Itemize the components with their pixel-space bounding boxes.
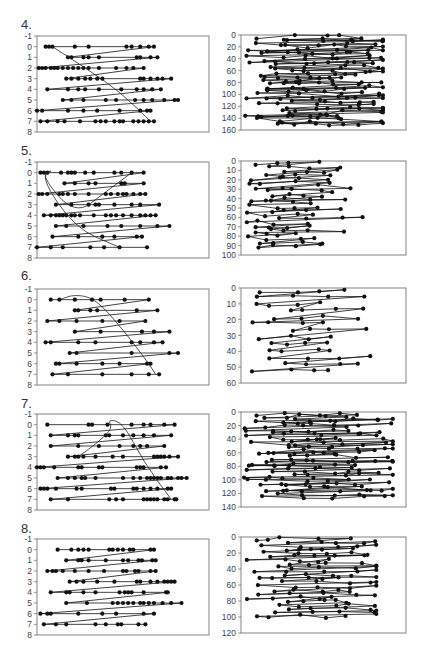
- data-point: [138, 444, 142, 448]
- data-point: [318, 242, 322, 246]
- y-tick-label: 5: [27, 598, 32, 608]
- data-point: [258, 182, 262, 186]
- y-tick-label: 4: [27, 210, 32, 220]
- data-point: [285, 488, 289, 492]
- data-point: [81, 55, 85, 59]
- data-point: [298, 559, 302, 563]
- data-point: [131, 476, 135, 480]
- data-point: [277, 535, 281, 539]
- data-point: [278, 97, 282, 101]
- data-point: [309, 201, 313, 205]
- data-point: [274, 71, 278, 75]
- data-point: [285, 416, 289, 420]
- data-point: [121, 476, 125, 480]
- data-point: [254, 41, 258, 45]
- data-point: [315, 102, 319, 106]
- data-point: [312, 236, 316, 240]
- data-point: [179, 601, 183, 605]
- y-tick-label: 0: [27, 545, 32, 555]
- data-point: [376, 417, 380, 421]
- data-point: [383, 494, 387, 498]
- data-point: [365, 488, 369, 492]
- data-point: [287, 607, 291, 611]
- data-point: [328, 181, 332, 185]
- data-point: [265, 49, 269, 53]
- data-point: [303, 341, 307, 345]
- data-point: [138, 55, 142, 59]
- data-point: [281, 229, 285, 233]
- data-point: [169, 601, 173, 605]
- y-tick-label: 80: [227, 78, 237, 88]
- data-point: [383, 446, 387, 450]
- data-point: [372, 102, 376, 106]
- data-point: [45, 87, 49, 91]
- y-tick-label: 120: [222, 628, 236, 638]
- data-point: [114, 612, 118, 616]
- data-point: [381, 437, 385, 441]
- data-point: [374, 568, 378, 572]
- row-4: 4. -1012345678 020406080100120140160: [21, 17, 406, 137]
- data-point: [271, 243, 275, 247]
- data-point: [40, 109, 44, 113]
- data-point: [155, 55, 159, 59]
- data-point: [270, 576, 274, 580]
- data-point: [359, 36, 363, 40]
- data-point: [342, 87, 346, 91]
- data-point: [268, 65, 272, 69]
- data-point: [50, 372, 54, 376]
- data-point: [280, 579, 284, 583]
- data-point: [289, 457, 293, 461]
- data-point: [282, 432, 286, 436]
- data-point: [281, 438, 285, 442]
- data-point: [147, 298, 151, 302]
- data-point: [130, 351, 134, 355]
- data-point: [252, 570, 256, 574]
- data-point: [320, 188, 324, 192]
- data-point: [286, 114, 290, 118]
- data-point: [294, 244, 298, 248]
- y-tick-label: 5: [27, 473, 32, 483]
- data-point: [167, 224, 171, 228]
- data-point: [270, 210, 274, 214]
- data-point: [301, 240, 305, 244]
- data-point: [155, 224, 159, 228]
- y-tick-label: 2: [27, 316, 32, 326]
- data-point: [50, 235, 54, 239]
- data-point: [313, 431, 317, 435]
- y-tick-label: 3: [27, 452, 32, 462]
- data-point: [130, 45, 134, 49]
- data-point: [121, 455, 125, 459]
- data-point: [179, 476, 183, 480]
- data-point: [176, 455, 180, 459]
- data-point: [280, 186, 284, 190]
- y-tick-label: 60: [227, 448, 237, 458]
- y-tick-label: 1: [27, 555, 32, 565]
- data-point: [162, 444, 166, 448]
- data-point: [85, 601, 89, 605]
- data-point: [311, 213, 315, 217]
- data-point: [391, 417, 395, 421]
- data-point: [131, 192, 135, 196]
- data-point: [262, 59, 266, 63]
- data-point: [324, 561, 328, 565]
- data-point: [380, 489, 384, 493]
- data-point: [357, 450, 361, 454]
- data-point: [123, 298, 127, 302]
- data-point: [364, 70, 368, 74]
- data-point: [269, 198, 273, 202]
- y-tick-label: 0: [231, 283, 236, 293]
- data-point: [145, 245, 149, 249]
- data-point: [138, 203, 142, 207]
- data-point: [289, 334, 293, 338]
- data-point: [309, 421, 313, 425]
- data-point: [121, 558, 125, 562]
- data-point: [111, 548, 115, 552]
- data-point: [317, 289, 321, 293]
- data-point: [279, 482, 283, 486]
- data-point: [336, 575, 340, 579]
- y-tick-label: 8: [27, 630, 32, 640]
- data-point: [319, 433, 323, 437]
- data-point: [105, 423, 109, 427]
- data-point: [142, 119, 146, 123]
- data-point: [155, 487, 159, 491]
